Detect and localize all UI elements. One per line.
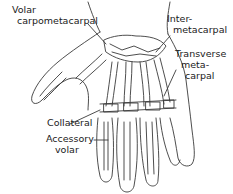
metacarpal-5: [154, 58, 170, 104]
label-line: carpometacarpal: [12, 15, 98, 26]
label-intermetacarpal: Inter- metacarpal: [167, 13, 227, 35]
label-line: metacarpal: [167, 24, 227, 35]
label-collateral: Collateral: [47, 117, 92, 128]
metacarpal-2: [106, 62, 118, 106]
carpal-bones: [104, 35, 166, 62]
label-line: Accessory: [46, 133, 94, 144]
label-line: Inter-: [167, 13, 227, 24]
label-line: carpal: [175, 70, 226, 81]
index-finger: [97, 118, 114, 182]
label-line: meta-: [175, 59, 226, 70]
label-transverse-metacarpal: Transverse meta- carpal: [175, 48, 226, 81]
metacarpal-4: [140, 62, 150, 106]
leader-intermetacarpal: [156, 36, 170, 52]
label-line: Volar: [12, 4, 98, 15]
label-line: volar: [46, 144, 94, 155]
label-volar-carpometacarpal: Volar carpometacarpal: [12, 4, 98, 26]
metacarpal-3: [124, 62, 132, 106]
thumb-outline: [32, 32, 100, 110]
label-line: Collateral: [47, 117, 92, 128]
forearm-outline: [88, 2, 170, 34]
label-accessory-volar: Accessory volar: [46, 133, 94, 155]
middle-finger: [117, 118, 138, 192]
label-line: Transverse: [175, 48, 226, 59]
ring-finger: [140, 118, 159, 186]
leader-volar-carpometacarpal: [88, 24, 106, 44]
